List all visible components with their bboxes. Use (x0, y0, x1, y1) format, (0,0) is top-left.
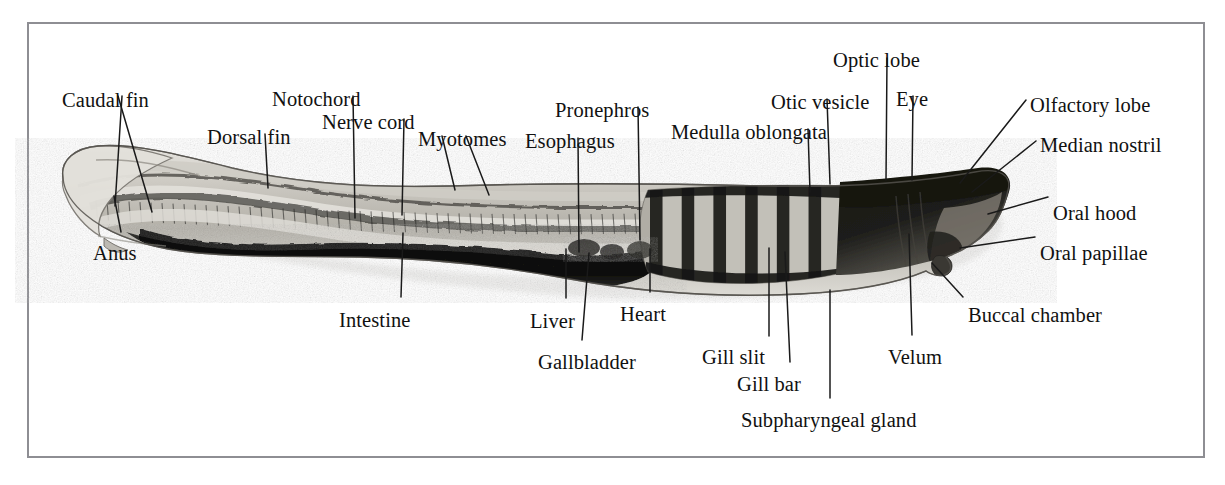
label-esophagus: Esophagus (525, 131, 615, 152)
label-otic-vesicle: Otic vesicle (771, 92, 870, 113)
label-notochord: Notochord (272, 89, 361, 110)
label-heart: Heart (620, 304, 666, 325)
label-optic-lobe: Optic lobe (833, 50, 920, 71)
label-subpharyngeal-gland: Subpharyngeal gland (741, 410, 917, 431)
label-gill-slit: Gill slit (702, 347, 765, 368)
label-caudal-fin: Caudal fin (62, 90, 149, 111)
figure-root: Caudal finAnusDorsal finNotochordNerve c… (0, 0, 1225, 485)
plate-frame (27, 22, 1205, 458)
label-velum: Velum (888, 347, 942, 368)
label-liver: Liver (530, 311, 575, 332)
label-gill-bar: Gill bar (737, 374, 801, 395)
label-eye: Eye (896, 89, 928, 110)
label-median-nostril: Median nostril (1040, 135, 1162, 156)
label-buccal-chamber: Buccal chamber (968, 305, 1102, 326)
label-gallbladder: Gallbladder (538, 352, 636, 373)
label-oral-hood: Oral hood (1053, 203, 1136, 224)
label-nerve-cord: Nerve cord (322, 112, 415, 133)
label-olfactory-lobe: Olfactory lobe (1030, 95, 1150, 116)
label-oral-papillae: Oral papillae (1040, 243, 1148, 264)
label-dorsal-fin: Dorsal fin (207, 127, 291, 148)
label-pronephros: Pronephros (555, 100, 649, 121)
label-intestine: Intestine (339, 310, 411, 331)
label-anus: Anus (93, 243, 137, 264)
label-myotomes: Myotomes (418, 129, 507, 150)
label-medulla-oblongata: Medulla oblongata (671, 122, 827, 143)
